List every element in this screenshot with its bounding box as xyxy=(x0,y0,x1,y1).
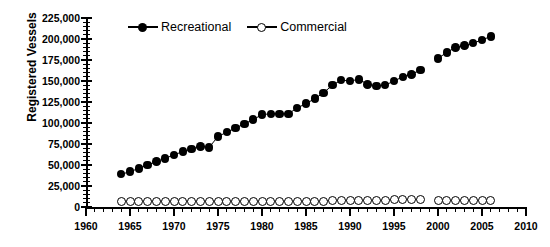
data-point-commercial xyxy=(275,197,284,206)
y-axis-minor-tick xyxy=(83,169,90,170)
x-axis-minor-tick xyxy=(235,207,236,212)
x-axis-major-tick xyxy=(173,207,175,216)
x-axis-major-tick xyxy=(217,207,219,216)
data-point-recreational xyxy=(337,76,346,85)
data-point-commercial xyxy=(249,197,258,206)
chart-container: Registered Vessels 225,000200,000175,000… xyxy=(0,0,550,247)
x-axis-minor-tick xyxy=(297,207,298,212)
data-point-recreational xyxy=(267,110,276,119)
y-axis-minor-tick xyxy=(83,202,90,203)
data-point-commercial xyxy=(407,195,416,204)
x-axis-minor-tick xyxy=(209,207,210,212)
data-point-recreational xyxy=(179,147,188,156)
data-point-recreational xyxy=(231,124,240,133)
y-axis-minor-tick xyxy=(83,22,90,23)
data-point-commercial xyxy=(434,196,443,205)
data-point-commercial xyxy=(266,197,275,206)
data-point-recreational xyxy=(240,120,249,129)
x-axis-minor-tick xyxy=(103,207,104,212)
x-axis-tick-label: 1995 xyxy=(371,220,417,232)
y-axis-tick-label: 0 xyxy=(22,202,80,212)
y-axis-minor-tick xyxy=(83,26,90,27)
data-point-commercial xyxy=(478,196,487,205)
data-point-commercial xyxy=(143,197,152,206)
x-axis-minor-tick xyxy=(490,207,491,212)
x-axis-minor-tick xyxy=(314,207,315,212)
data-point-commercial xyxy=(363,196,372,205)
data-point-recreational xyxy=(381,81,390,90)
y-axis-minor-tick xyxy=(83,93,90,94)
x-axis-tick-label: 1980 xyxy=(239,220,285,232)
data-point-recreational xyxy=(478,36,487,45)
data-point-commercial xyxy=(390,195,399,204)
x-axis-tick-label: 1985 xyxy=(283,220,329,232)
data-point-recreational xyxy=(135,164,144,173)
x-axis-major-tick xyxy=(129,207,131,216)
y-axis-minor-tick xyxy=(83,194,90,195)
x-axis-minor-tick xyxy=(138,207,139,212)
data-point-recreational xyxy=(249,115,258,124)
y-axis-minor-tick xyxy=(83,173,90,174)
data-point-recreational xyxy=(196,142,205,151)
y-axis-minor-tick xyxy=(83,131,90,132)
y-axis-minor-tick xyxy=(83,106,90,107)
x-axis-major-tick xyxy=(393,207,395,216)
y-axis-minor-tick xyxy=(83,110,90,111)
y-axis-minor-tick xyxy=(83,177,90,178)
data-point-recreational xyxy=(372,82,381,91)
x-axis-tick-label: 1975 xyxy=(195,220,241,232)
data-point-recreational xyxy=(407,70,416,79)
x-axis-minor-tick xyxy=(253,207,254,212)
data-point-recreational xyxy=(284,110,293,119)
data-point-recreational xyxy=(399,73,408,82)
x-axis-minor-tick xyxy=(358,207,359,212)
y-axis-minor-tick xyxy=(83,156,90,157)
x-axis-tick-label: 2005 xyxy=(459,220,505,232)
data-point-commercial xyxy=(451,196,460,205)
x-axis-minor-tick xyxy=(147,207,148,212)
x-axis-minor-tick xyxy=(341,207,342,212)
y-axis-minor-tick xyxy=(83,68,90,69)
data-point-commercial xyxy=(178,197,187,206)
y-axis-major-tick xyxy=(81,80,92,82)
y-axis-tick-label: 75,000 xyxy=(22,139,80,149)
y-axis-tick-labels: 225,000200,000175,000150,000125,000100,0… xyxy=(20,0,80,247)
data-point-recreational xyxy=(205,143,214,152)
data-point-commercial xyxy=(442,196,451,205)
data-point-recreational xyxy=(126,167,135,176)
y-axis-tick-label: 125,000 xyxy=(22,97,80,107)
x-axis-minor-tick xyxy=(200,207,201,212)
data-point-commercial xyxy=(310,197,319,206)
x-axis-minor-tick xyxy=(191,207,192,212)
data-point-commercial xyxy=(152,197,161,206)
y-axis-minor-tick xyxy=(83,160,90,161)
y-axis-minor-tick xyxy=(83,30,90,31)
data-point-recreational xyxy=(469,39,478,48)
x-axis-minor-tick xyxy=(288,207,289,212)
y-axis-minor-tick xyxy=(83,118,90,119)
y-axis-minor-tick xyxy=(83,148,90,149)
y-axis-minor-tick xyxy=(83,72,90,73)
data-point-commercial xyxy=(214,197,223,206)
y-axis-minor-tick xyxy=(83,97,90,98)
y-axis-tick-label: 200,000 xyxy=(22,34,80,44)
y-axis-major-tick xyxy=(81,17,92,19)
data-point-recreational xyxy=(143,161,152,170)
data-point-recreational xyxy=(258,110,267,119)
data-point-commercial xyxy=(354,196,363,205)
x-axis-minor-tick xyxy=(429,207,430,212)
x-axis-minor-tick xyxy=(499,207,500,212)
data-point-commercial xyxy=(222,197,231,206)
data-point-commercial xyxy=(398,195,407,204)
data-point-commercial xyxy=(469,196,478,205)
x-axis-minor-tick xyxy=(165,207,166,212)
data-point-commercial xyxy=(170,197,179,206)
y-axis-major-tick xyxy=(81,185,92,187)
y-axis-minor-tick xyxy=(83,43,90,44)
x-axis-minor-tick xyxy=(121,207,122,212)
x-axis-major-tick xyxy=(349,207,351,216)
data-point-recreational xyxy=(311,94,320,103)
y-axis-major-tick xyxy=(81,38,92,40)
plot-area: 1960196519701975198019851990199520002005… xyxy=(86,18,526,207)
x-axis-tick-label: 1960 xyxy=(63,220,109,232)
